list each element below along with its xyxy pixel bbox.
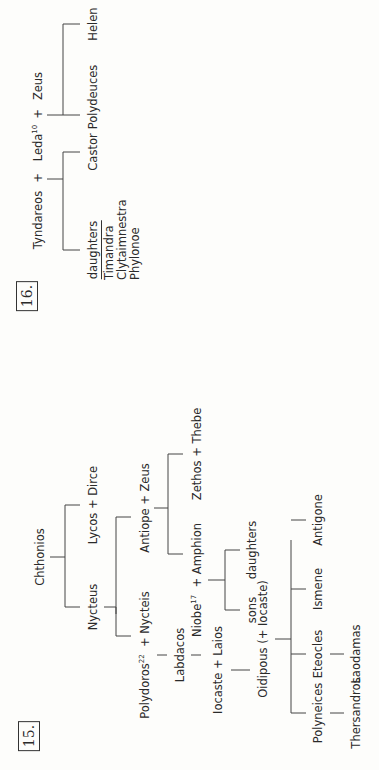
polydoros-name: Polydoros: [138, 663, 152, 718]
node-nycteus: Nycteus: [86, 584, 100, 631]
leda-name: Leda: [31, 134, 45, 162]
node-iocaste-laios: Iocaste + Laios: [211, 626, 225, 714]
node-chthonios: Chthonios: [33, 528, 47, 586]
node-helen: Helen: [86, 7, 100, 40]
node-thersandros: Thersandros: [349, 677, 363, 748]
niobe-name: Niobe: [190, 604, 204, 637]
node-daughters-16: daughters: [86, 221, 100, 280]
daughter-clytaimnestra: Clytaimnestra: [115, 199, 129, 280]
footnote-ref: 10: [31, 125, 39, 134]
node-polyneices: Polyneices: [311, 683, 325, 744]
nycteis-name: + Nycteis: [138, 591, 152, 647]
node-leda: Leda10: [31, 125, 45, 162]
node-ismene: Ismene: [311, 568, 325, 610]
node-antiope-zeus: Antiope + Zeus: [138, 463, 152, 552]
node-eteocles: Eteocles: [311, 630, 325, 678]
node-labdacos: Labdacos: [173, 628, 187, 682]
figure-number-16: 16.: [16, 281, 38, 311]
node-polydeuces: Polydeuces: [86, 65, 100, 130]
node-tyndareos: Tyndareos: [31, 191, 45, 249]
node-niobe-amphion: Niobe17 + Amphion: [190, 523, 204, 637]
node-antigone: Antigone: [311, 494, 325, 546]
footnote-ref: 17: [190, 595, 198, 604]
genealogy-page: 15. Chthonios Nycteus Lycos + Dirce Poly…: [0, 0, 379, 770]
plus-sign: +: [31, 109, 45, 119]
node-castor: Castor: [86, 133, 100, 170]
node-zethos-thebe: Zethos + Thebe: [190, 408, 204, 501]
daughter-timandra: Timandra: [102, 226, 116, 280]
node-laodamas: Laodamas: [349, 624, 363, 683]
footnote-ref: 22: [138, 654, 146, 663]
daughter-phylonoe: Phylonoe: [128, 227, 142, 280]
plus-sign: +: [31, 173, 45, 183]
daughters-label: daughters: [86, 221, 102, 280]
node-oidipous: Oidipous (+ Iocaste): [256, 580, 270, 698]
node-zeus: Zeus: [31, 72, 45, 100]
amphion-name: + Amphion: [190, 523, 204, 587]
node-lycos-dirce: Lycos + Dirce: [86, 466, 100, 544]
node-daughters: daughters: [245, 521, 259, 580]
node-polydoros-nycteis: Polydoros22 + Nycteis: [138, 591, 152, 718]
figure-number-15: 15.: [18, 721, 40, 751]
